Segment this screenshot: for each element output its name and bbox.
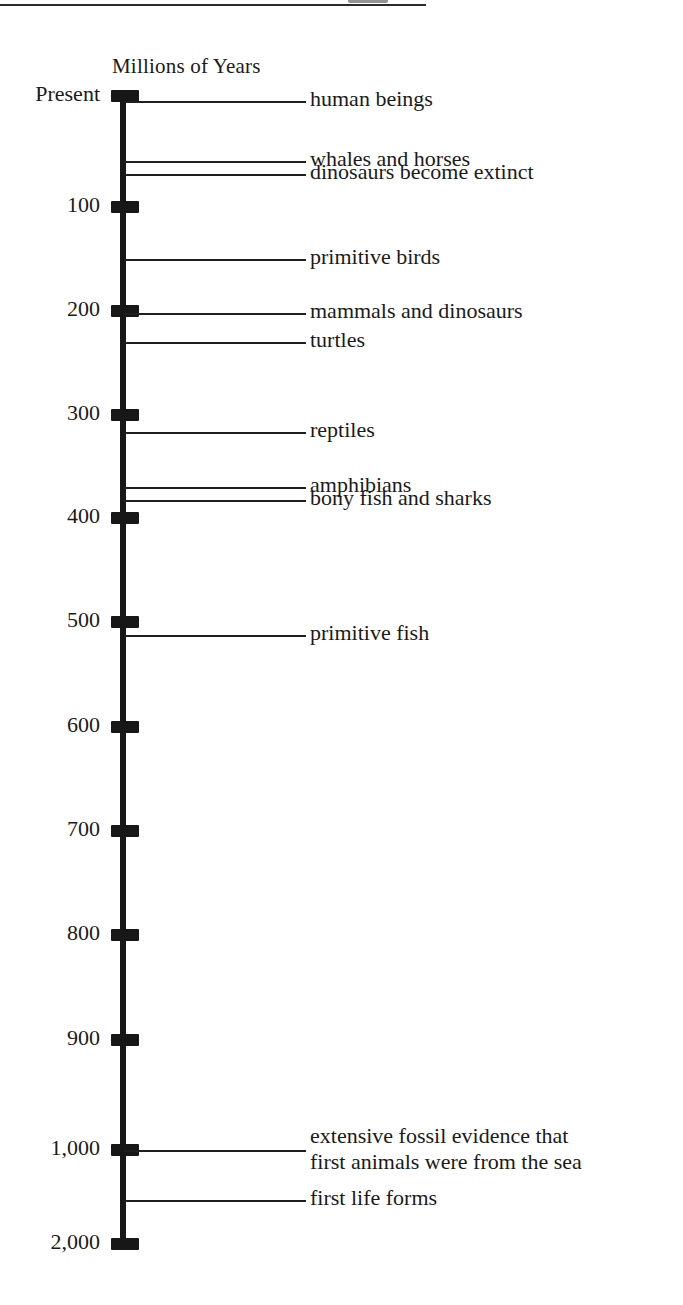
axis-tick-mark bbox=[111, 1034, 139, 1046]
event-leader-line bbox=[124, 487, 306, 489]
axis-tick-label: 1,000 bbox=[0, 1135, 100, 1161]
axis-tick-label: Present bbox=[0, 81, 100, 107]
event-label: extensive fossil evidence thatfirst anim… bbox=[310, 1123, 582, 1175]
axis-tick-mark bbox=[111, 409, 139, 421]
event-leader-line bbox=[124, 161, 306, 163]
axis-tick-label: 700 bbox=[0, 816, 100, 842]
axis-tick-label: 400 bbox=[0, 503, 100, 529]
axis-tick-mark bbox=[111, 512, 139, 524]
event-leader-line bbox=[124, 101, 306, 103]
event-leader-line bbox=[124, 174, 306, 176]
event-leader-line bbox=[124, 1150, 306, 1152]
event-label: turtles bbox=[310, 327, 365, 353]
geologic-timeline-chart: Millions of Years Present100200300400500… bbox=[0, 0, 683, 1305]
axis-tick-mark bbox=[111, 201, 139, 213]
event-label: reptiles bbox=[310, 417, 375, 443]
event-label: primitive birds bbox=[310, 244, 440, 270]
axis-tick-mark bbox=[111, 305, 139, 317]
axis-title: Millions of Years bbox=[112, 54, 261, 79]
event-leader-line bbox=[124, 635, 306, 637]
event-label-line-1: extensive fossil evidence that bbox=[310, 1123, 568, 1148]
event-label: mammals and dinosaurs bbox=[310, 298, 523, 324]
axis-tick-label: 200 bbox=[0, 296, 100, 322]
axis-tick-label: 500 bbox=[0, 607, 100, 633]
axis-tick-mark bbox=[111, 721, 139, 733]
axis-tick-mark bbox=[111, 1238, 139, 1250]
event-leader-line bbox=[124, 342, 306, 344]
event-label-line-2: first animals were from the sea bbox=[310, 1149, 582, 1175]
event-label: human beings bbox=[310, 86, 433, 112]
time-axis-line bbox=[120, 92, 126, 1246]
event-leader-line bbox=[124, 432, 306, 434]
event-leader-line bbox=[124, 259, 306, 261]
axis-tick-label: 600 bbox=[0, 712, 100, 738]
event-leader-line bbox=[124, 500, 306, 502]
axis-tick-label: 900 bbox=[0, 1025, 100, 1051]
event-label: bony fish and sharks bbox=[310, 485, 491, 511]
axis-tick-mark bbox=[111, 825, 139, 837]
axis-tick-label: 2,000 bbox=[0, 1229, 100, 1255]
axis-tick-mark bbox=[111, 929, 139, 941]
event-leader-line bbox=[124, 1200, 306, 1202]
axis-tick-label: 800 bbox=[0, 920, 100, 946]
axis-tick-mark bbox=[111, 616, 139, 628]
axis-tick-label: 300 bbox=[0, 400, 100, 426]
event-label: first life forms bbox=[310, 1185, 437, 1211]
event-label: dinosaurs become extinct bbox=[310, 159, 534, 185]
axis-tick-label: 100 bbox=[0, 192, 100, 218]
event-leader-line bbox=[124, 313, 306, 315]
event-label: primitive fish bbox=[310, 620, 429, 646]
